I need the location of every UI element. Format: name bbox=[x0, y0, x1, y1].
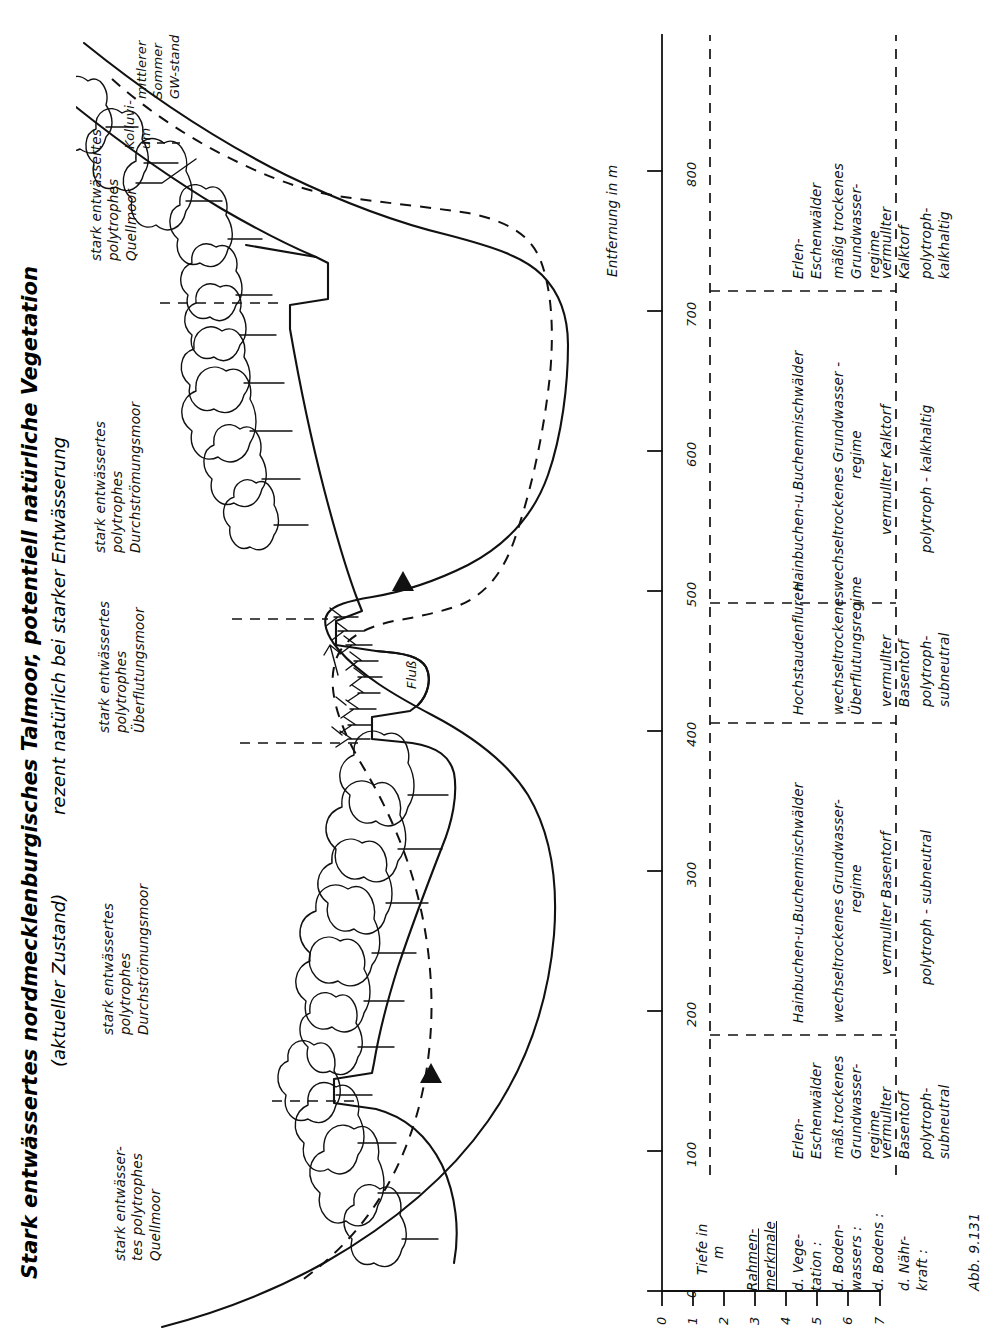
annotation-line: Sommer bbox=[150, 34, 166, 99]
cross-section-drawing bbox=[76, 0, 636, 1335]
annotation-line: mittlerer bbox=[134, 34, 150, 99]
cell-line: Erlen- bbox=[790, 1063, 808, 1159]
annotation-kolluvium: Kolluvi- um bbox=[122, 100, 155, 149]
annotation-line: Kolluvi- bbox=[122, 100, 138, 149]
cell-line: Hainbuchen-u.Buchenmischwälder bbox=[790, 783, 808, 1023]
cell-line: Hochstaudenfluren bbox=[790, 583, 808, 715]
cell-line: subneutral bbox=[936, 1085, 954, 1159]
zone-label-line: Überflutungsmoor bbox=[131, 601, 148, 733]
row-header-line: kraft : bbox=[914, 1236, 932, 1291]
zone-separators bbox=[160, 303, 362, 1101]
cell-boden-col4: vermullter Kalktorf bbox=[878, 405, 896, 535]
cell-line: polytroph- bbox=[918, 207, 936, 279]
cell-line: wechseltrockenes Grundwasser - bbox=[830, 362, 848, 591]
y-tick-1: 1 bbox=[685, 1317, 700, 1325]
zone-label-line: stark entwässertes bbox=[88, 129, 105, 261]
cell-line: subneutral bbox=[936, 633, 954, 707]
cell-line: mäß.trockenes bbox=[830, 1056, 848, 1159]
zone-label-line: stark entwässertes bbox=[96, 601, 113, 733]
x-axis-ticks bbox=[648, 171, 662, 1291]
zone-label-line: polytrophes bbox=[109, 402, 126, 553]
zone-label-durchstroemungsmoor-left: stark entwässertes polytrophes Durchströ… bbox=[100, 884, 152, 1035]
cell-line: mäßig trockenes bbox=[830, 163, 848, 279]
cell-bodenwasser-col1: mäß.trockenes Grundwasser- regime bbox=[830, 1056, 883, 1159]
page-title: Stark entwässertes nordmecklenburgisches… bbox=[18, 266, 42, 1279]
cell-boden-col2: vermullter Basentorf bbox=[878, 831, 896, 975]
zone-label-line: stark entwässer- bbox=[112, 1146, 129, 1261]
mineral-subsoil-curve bbox=[84, 43, 568, 1327]
title-line-3: rezent natürlich bei starker Entwässerun… bbox=[48, 437, 69, 815]
cell-line: wechseltrockenes Grundwasser- bbox=[830, 799, 848, 1023]
cell-boden-col5: vermullter Kalktorf bbox=[878, 207, 914, 279]
cell-line: regime bbox=[848, 799, 866, 913]
zone-label-line: polytrophes bbox=[117, 884, 134, 1035]
x-tick-300: 300 bbox=[684, 862, 699, 887]
x-tick-400: 400 bbox=[684, 722, 699, 747]
cell-line: wechseltrockenes bbox=[830, 576, 848, 715]
cell-line: polytroph - kalkhaltig bbox=[918, 404, 936, 553]
title-line-1: Stark entwässertes nordmecklenburgisches… bbox=[18, 266, 42, 1279]
zone-label-line: Quellmoor bbox=[147, 1146, 164, 1261]
flow-direction-arrow-right bbox=[392, 571, 414, 591]
cell-line: Eschenwälder bbox=[808, 183, 826, 279]
zone-label-line: polytrophes bbox=[113, 601, 130, 733]
cell-bodenwasser-col3: wechseltrockenes Überflutungsregime bbox=[830, 576, 866, 715]
x-tick-800: 800 bbox=[684, 162, 699, 187]
x-axis bbox=[636, 0, 682, 1335]
cell-line: Basentorf bbox=[896, 635, 914, 707]
zone-label-line: tes polytrophes bbox=[129, 1146, 146, 1261]
x-tick-200: 200 bbox=[684, 1002, 699, 1027]
title-subline-left: (aktueller Zustand) bbox=[48, 894, 69, 1067]
annotation-line: GW-stand bbox=[167, 34, 183, 99]
x-tick-700: 700 bbox=[684, 302, 699, 327]
cell-bodenwasser-col2: wechseltrockenes Grundwasser- regime bbox=[830, 799, 866, 1023]
cell-line: kalkhaltig bbox=[936, 207, 954, 279]
cell-naehrkraft-col3: polytroph- subneutral bbox=[918, 633, 954, 707]
river-channel bbox=[376, 651, 429, 705]
cell-line: Eschenwälder bbox=[808, 1063, 826, 1159]
flow-direction-arrow-left bbox=[420, 1063, 442, 1083]
cell-bodenwasser-col5: mäßig trockenes Grundwasser- regime bbox=[830, 163, 883, 279]
zone-label-durchstroemungsmoor-right: stark entwässertes polytrophes Durchströ… bbox=[92, 402, 144, 553]
cell-line: Basentorf bbox=[896, 1087, 914, 1159]
groundwater-table-dashed bbox=[112, 79, 552, 1283]
title-line-2: (aktueller Zustand) bbox=[48, 894, 69, 1067]
cell-vegetation-col3: Hochstaudenfluren bbox=[790, 583, 808, 715]
cell-line: Grundwasser- bbox=[848, 1056, 866, 1159]
cell-line: Hainbuchen-u.Buchenmischwälder bbox=[790, 351, 808, 591]
cell-line: Erlen- bbox=[790, 183, 808, 279]
cell-line: vermullter bbox=[878, 1087, 896, 1159]
zone-label-line: stark entwässertes bbox=[100, 884, 117, 1035]
zone-label-line: stark entwässertes bbox=[92, 402, 109, 553]
x-tick-600: 600 bbox=[684, 442, 699, 467]
cell-line: vermullter bbox=[878, 207, 896, 279]
cell-bodenwasser-col4: wechseltrockenes Grundwasser - regime bbox=[830, 362, 866, 591]
kolluvium-boundary bbox=[246, 245, 316, 257]
title-subline-right: rezent natürlich bei starker Entwässerun… bbox=[48, 437, 69, 815]
zone-label-ueberflutungsmoor: stark entwässertes polytrophes Überflutu… bbox=[96, 601, 148, 733]
cell-line: Überflutungsregime bbox=[848, 576, 866, 715]
cell-line: polytroph- bbox=[918, 633, 936, 707]
cell-vegetation-col2: Hainbuchen-u.Buchenmischwälder bbox=[790, 783, 808, 1023]
cell-naehrkraft-col5: polytroph- kalkhaltig bbox=[918, 207, 954, 279]
figure-caption: Abb. 9.131 bbox=[966, 1213, 982, 1291]
cell-line: vermullter Basentorf bbox=[878, 831, 896, 975]
y-tick-0: 0 bbox=[654, 1317, 669, 1325]
zone-label-line: Durchströmungsmoor bbox=[127, 402, 144, 553]
cell-vegetation-col1: Erlen- Eschenwälder bbox=[790, 1063, 826, 1159]
cell-line: Kalktorf bbox=[896, 207, 914, 279]
x-tick-500: 500 bbox=[684, 582, 699, 607]
zone-label-line: Durchströmungsmoor bbox=[135, 884, 152, 1035]
zone-label-line: polytrophes bbox=[105, 129, 122, 261]
cell-line: Grundwasser- bbox=[848, 163, 866, 279]
cell-line: polytroph - subneutral bbox=[918, 830, 936, 985]
annotation-river: Fluß bbox=[404, 661, 420, 689]
cell-vegetation-col5: Erlen- Eschenwälder bbox=[790, 183, 826, 279]
cell-boden-col1: vermullter Basentorf bbox=[878, 1087, 914, 1159]
annotation-line: um bbox=[138, 100, 154, 149]
annotation-line: Fluß bbox=[404, 661, 420, 689]
tree-group-right-durchstroemungsmoor bbox=[181, 244, 308, 550]
cell-line: vermullter Kalktorf bbox=[878, 405, 896, 535]
